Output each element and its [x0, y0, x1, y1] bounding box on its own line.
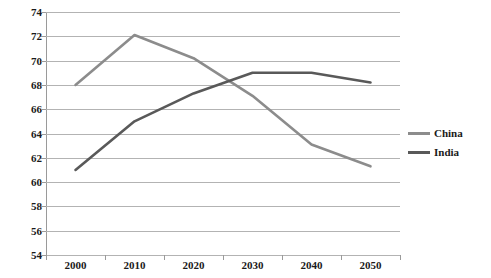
- y-axis-tick-label: 74: [2, 7, 42, 18]
- legend-entry-india[interactable]: India: [408, 143, 488, 162]
- y-axis-tick-label: 62: [2, 152, 42, 163]
- series-layer: [46, 12, 400, 255]
- x-axis-tick-label: 2010: [124, 260, 146, 271]
- x-axis-tick-mark: [400, 255, 401, 260]
- series-line-china: [76, 35, 371, 166]
- legend-label: China: [434, 128, 463, 139]
- legend-swatch-icon: [408, 132, 430, 135]
- y-axis-tick-label: 64: [2, 128, 42, 139]
- line-chart: 5456586062646668707274 20002010202020302…: [0, 0, 491, 278]
- legend-swatch-icon: [408, 151, 430, 154]
- x-axis-tick-label: 2040: [301, 260, 323, 271]
- legend-entry-china[interactable]: China: [408, 124, 488, 143]
- series-line-india: [76, 73, 371, 170]
- y-axis-tick-label: 70: [2, 55, 42, 66]
- y-axis-tick-label: 60: [2, 177, 42, 188]
- y-axis-tick-label: 58: [2, 201, 42, 212]
- y-axis-tick-label: 66: [2, 104, 42, 115]
- x-axis-tick-label: 2030: [242, 260, 264, 271]
- y-axis-tick-labels: 5456586062646668707274: [0, 12, 42, 255]
- x-axis-tick-label: 2050: [360, 260, 382, 271]
- y-axis-tick-label: 56: [2, 225, 42, 236]
- x-axis-tick-label: 2000: [65, 260, 87, 271]
- legend-label: India: [434, 147, 459, 158]
- y-axis-tick-label: 54: [2, 250, 42, 261]
- chart-legend: ChinaIndia: [408, 124, 488, 162]
- x-axis-tick-labels: 200020102020203020402050: [46, 260, 400, 276]
- x-axis-tick-label: 2020: [183, 260, 205, 271]
- y-axis-tick-label: 72: [2, 31, 42, 42]
- y-axis-tick-label: 68: [2, 79, 42, 90]
